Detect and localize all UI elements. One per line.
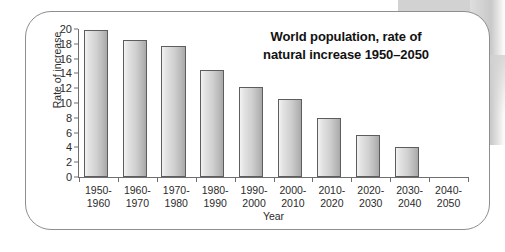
x-tick-label: 1970-1980 bbox=[157, 184, 196, 209]
y-tick-label-0: 0 bbox=[66, 171, 72, 183]
x-tick-mark bbox=[118, 177, 119, 182]
x-tick-mark bbox=[196, 177, 197, 182]
x-tick-mark bbox=[312, 177, 313, 182]
bar-slot bbox=[390, 29, 429, 177]
bar[interactable] bbox=[123, 40, 147, 177]
x-tick-label: 1990-2000 bbox=[235, 184, 274, 209]
y-tick-label-8: 8 bbox=[66, 112, 72, 124]
bar-slot bbox=[351, 29, 390, 177]
y-tick-label-10: 10 bbox=[60, 97, 72, 109]
y-tick-label-6: 6 bbox=[66, 127, 72, 139]
bar-slot bbox=[118, 29, 157, 177]
x-tick-label: 2010-2020 bbox=[312, 184, 351, 209]
y-tick-label-14: 14 bbox=[60, 67, 72, 79]
x-tick-label: 2020-2030 bbox=[351, 184, 390, 209]
x-tick-mark bbox=[429, 177, 430, 182]
y-tick-label-4: 4 bbox=[66, 141, 72, 153]
x-tick-mark bbox=[351, 177, 352, 182]
bar[interactable] bbox=[278, 99, 302, 177]
x-axis-title: Year bbox=[79, 210, 468, 222]
bar[interactable] bbox=[356, 135, 380, 177]
y-tick-label-2: 2 bbox=[66, 156, 72, 168]
y-tick-label-16: 16 bbox=[60, 53, 72, 65]
chart-frame: World population, rate of natural increa… bbox=[25, 11, 490, 230]
plot-area: World population, rate of natural increa… bbox=[26, 12, 491, 231]
bar-slot bbox=[429, 29, 468, 177]
x-tick-mark bbox=[468, 177, 469, 182]
x-tick-mark bbox=[235, 177, 236, 182]
bar[interactable] bbox=[239, 87, 263, 177]
bar-slot bbox=[157, 29, 196, 177]
bar-slot bbox=[235, 29, 274, 177]
bar-slot bbox=[312, 29, 351, 177]
y-tick-label-20: 20 bbox=[60, 23, 72, 35]
x-tick-mark bbox=[274, 177, 275, 182]
bar-slot bbox=[196, 29, 235, 177]
x-tick-label: 2000-2010 bbox=[274, 184, 313, 209]
bar[interactable] bbox=[200, 70, 224, 177]
y-axis-tick-labels: 02468101214161820 bbox=[34, 29, 78, 177]
y-tick-label-18: 18 bbox=[60, 38, 72, 50]
x-tick-mark bbox=[157, 177, 158, 182]
bar[interactable] bbox=[84, 30, 108, 177]
x-tick-label: 1950-1960 bbox=[79, 184, 118, 209]
x-tick-mark bbox=[79, 177, 80, 182]
bar[interactable] bbox=[395, 147, 419, 177]
bar-slot bbox=[79, 29, 118, 177]
bar[interactable] bbox=[317, 118, 341, 177]
x-tick-label: 2040-2050 bbox=[429, 184, 468, 209]
x-tick-mark bbox=[390, 177, 391, 182]
x-tick-label: 1980-1990 bbox=[196, 184, 235, 209]
x-tick-label: 2030-2040 bbox=[390, 184, 429, 209]
bar-slot bbox=[274, 29, 313, 177]
bars-container bbox=[79, 29, 468, 177]
bar[interactable] bbox=[161, 46, 185, 177]
y-tick-label-12: 12 bbox=[60, 82, 72, 94]
x-tick-label: 1960-1970 bbox=[118, 184, 157, 209]
